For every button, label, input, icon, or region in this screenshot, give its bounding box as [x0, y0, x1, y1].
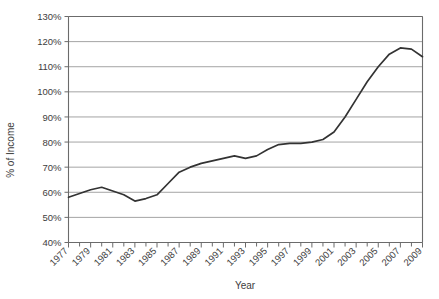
y-tick-label-90: 90% [42, 112, 62, 123]
chart-container: 130%120%110%100%90%80%70%60%50%40% 19771… [0, 0, 439, 299]
y-tick-label-80: 80% [42, 137, 62, 148]
y-axis-title: % of Income [5, 122, 16, 178]
y-tick-label-100: 100% [37, 86, 62, 97]
y-tick-label-120: 120% [37, 36, 62, 47]
y-tick-label-110: 110% [38, 61, 62, 72]
line-chart: 130%120%110%100%90%80%70%60%50%40% 19771… [0, 0, 439, 299]
y-tick-label-60: 60% [42, 187, 62, 198]
y-tick-label-70: 70% [42, 162, 62, 173]
y-tick-label-130: 130% [37, 11, 62, 22]
y-tick-label-50: 50% [42, 212, 62, 223]
y-tick-label-40: 40% [42, 237, 62, 248]
x-axis-title: Year [235, 280, 256, 291]
